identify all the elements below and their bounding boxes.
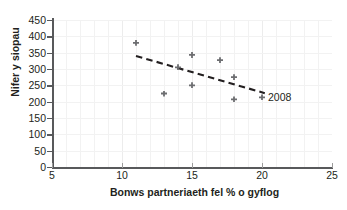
gridline-vertical (108, 20, 109, 167)
gridline-vertical (192, 20, 193, 167)
gridline-vertical (304, 20, 305, 167)
x-axis-title: Bonws partneriaeth fel % o gyflog (52, 186, 337, 198)
x-tick-label: 25 (317, 170, 347, 181)
y-tick-mark (47, 134, 52, 135)
y-tick-mark (47, 118, 52, 119)
y-tick-mark (47, 20, 52, 21)
y-tick-mark (47, 69, 52, 70)
y-tick-mark (47, 53, 52, 54)
x-tick-label: 15 (177, 170, 207, 181)
y-tick-mark (47, 85, 52, 86)
y-axis-line (52, 18, 54, 169)
gridline-vertical (94, 20, 95, 167)
x-tick-mark (332, 163, 333, 168)
gridline-horizontal (52, 69, 332, 70)
gridline-vertical (66, 20, 67, 167)
x-tick-label: 10 (107, 170, 137, 181)
x-tick-label: 20 (247, 170, 277, 181)
gridline-vertical (234, 20, 235, 167)
series-annotation-2008: 2008 (268, 92, 291, 103)
x-tick-mark (262, 163, 263, 168)
gridline-vertical (248, 20, 249, 167)
y-tick-label: 100 (16, 129, 46, 140)
x-tick-mark (192, 163, 193, 168)
gridline-vertical (178, 20, 179, 167)
gridline-vertical (206, 20, 207, 167)
gridline-horizontal (52, 36, 332, 37)
y-tick-mark (47, 102, 52, 103)
gridline-vertical (150, 20, 151, 167)
gridline-vertical (122, 20, 123, 167)
x-tick-mark (52, 163, 53, 168)
scatter-chart: 050100150200250300350400450510152025 Nif… (0, 0, 347, 210)
gridline-vertical (318, 20, 319, 167)
y-tick-mark (47, 151, 52, 152)
x-tick-label: 5 (37, 170, 67, 181)
gridline-vertical (220, 20, 221, 167)
y-axis-title: Nifer y siopau (9, 2, 21, 122)
gridline-vertical (80, 20, 81, 167)
y-tick-mark (47, 36, 52, 37)
gridline-vertical (262, 20, 263, 167)
gridline-horizontal (52, 20, 332, 21)
gridline-horizontal (52, 151, 332, 152)
gridline-horizontal (52, 134, 332, 135)
y-tick-label: 50 (16, 146, 46, 157)
x-tick-mark (122, 163, 123, 168)
gridline-horizontal (52, 118, 332, 119)
